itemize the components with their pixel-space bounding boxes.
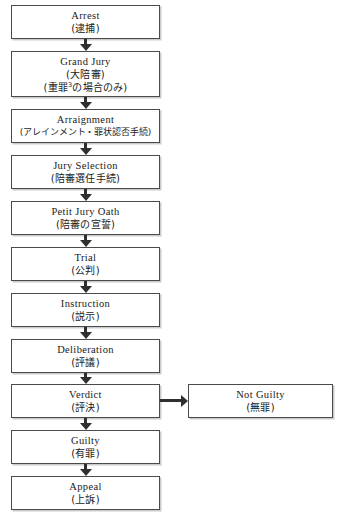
node-deliberation-label-jp: (評議) xyxy=(71,356,100,369)
arrow-arraignment-to-jury-selection xyxy=(79,143,92,155)
arrow-trial-to-instruction xyxy=(79,281,92,293)
arrow-head xyxy=(80,423,92,430)
arrow-head xyxy=(80,286,92,293)
arrow-shaft xyxy=(160,399,181,402)
arrow-head xyxy=(80,148,92,155)
arrow-petit-jury-oath-to-trial xyxy=(79,235,92,247)
node-grand-jury[interactable]: Grand Jury (大陪審) (重罪3の場合のみ) xyxy=(11,51,160,97)
node-appeal-label-jp: (上訴) xyxy=(71,493,100,506)
arrow-head xyxy=(80,194,92,201)
arrow-verdict-to-not-guilty xyxy=(160,394,188,407)
arrow-grand-jury-to-arraignment xyxy=(79,97,92,109)
arrow-jury-selection-to-petit-jury-oath xyxy=(79,189,92,201)
arrow-head xyxy=(80,240,92,247)
arrow-guilty-to-appeal xyxy=(79,464,92,476)
node-trial-label-jp: (公判) xyxy=(71,264,100,277)
node-arrest[interactable]: Arrest (逮捕) xyxy=(11,5,160,39)
node-grand-jury-label-en: Grand Jury xyxy=(60,55,110,68)
node-trial[interactable]: Trial (公判) xyxy=(11,247,160,281)
node-petit-jury-oath[interactable]: Petit Jury Oath (陪審の宣誓) xyxy=(11,201,160,235)
node-instruction-label-jp: (説示) xyxy=(71,310,100,323)
arrow-head xyxy=(181,395,188,407)
node-petit-jury-oath-label-en: Petit Jury Oath xyxy=(51,205,119,218)
node-grand-jury-label-jp-note: (重罪3の場合のみ) xyxy=(44,81,128,94)
node-verdict[interactable]: Verdict (評決) xyxy=(11,384,160,418)
node-deliberation-label-en: Deliberation xyxy=(57,343,114,356)
arrow-arrest-to-grand-jury xyxy=(79,39,92,51)
node-not-guilty-label-en: Not Guilty xyxy=(236,388,285,401)
arrow-head xyxy=(80,469,92,476)
arrow-instruction-to-deliberation xyxy=(79,327,92,339)
node-verdict-label-en: Verdict xyxy=(69,388,102,401)
node-guilty-label-en: Guilty xyxy=(71,434,100,447)
arrow-head xyxy=(80,332,92,339)
node-petit-jury-oath-label-jp: (陪審の宣誓) xyxy=(56,218,115,231)
node-deliberation[interactable]: Deliberation (評議) xyxy=(11,339,160,373)
node-not-guilty[interactable]: Not Guilty (無罪) xyxy=(188,384,333,418)
arrow-head xyxy=(80,44,92,51)
arrow-verdict-to-guilty xyxy=(79,418,92,430)
arrow-head xyxy=(80,377,92,384)
flowchart-canvas: Arrest (逮捕) Grand Jury (大陪審) (重罪3の場合のみ) … xyxy=(0,0,344,523)
node-trial-label-en: Trial xyxy=(75,251,97,264)
node-not-guilty-label-jp: (無罪) xyxy=(246,401,275,414)
node-arraignment[interactable]: Arraignment (アレインメント・罪状認否手続) xyxy=(11,109,160,143)
node-appeal-label-en: Appeal xyxy=(69,480,101,493)
arrow-head xyxy=(80,102,92,109)
node-guilty[interactable]: Guilty (有罪) xyxy=(11,430,160,464)
node-arrest-label-en: Arrest xyxy=(71,9,99,22)
node-jury-selection-label-en: Jury Selection xyxy=(53,159,118,172)
node-arrest-label-jp: (逮捕) xyxy=(71,22,100,35)
node-instruction-label-en: Instruction xyxy=(61,297,110,310)
node-arraignment-label-en: Arraignment xyxy=(57,113,115,126)
arrow-deliberation-to-verdict xyxy=(79,373,92,384)
node-grand-jury-label-jp: (大陪審) xyxy=(66,68,105,81)
node-jury-selection-label-jp: (陪審選任手続) xyxy=(51,172,120,185)
node-verdict-label-jp: (評決) xyxy=(71,401,100,414)
node-guilty-label-jp: (有罪) xyxy=(71,447,100,460)
node-instruction[interactable]: Instruction (説示) xyxy=(11,293,160,327)
node-appeal[interactable]: Appeal (上訴) xyxy=(11,476,160,510)
node-arraignment-label-jp: (アレインメント・罪状認否手続) xyxy=(20,126,151,139)
node-jury-selection[interactable]: Jury Selection (陪審選任手続) xyxy=(11,155,160,189)
